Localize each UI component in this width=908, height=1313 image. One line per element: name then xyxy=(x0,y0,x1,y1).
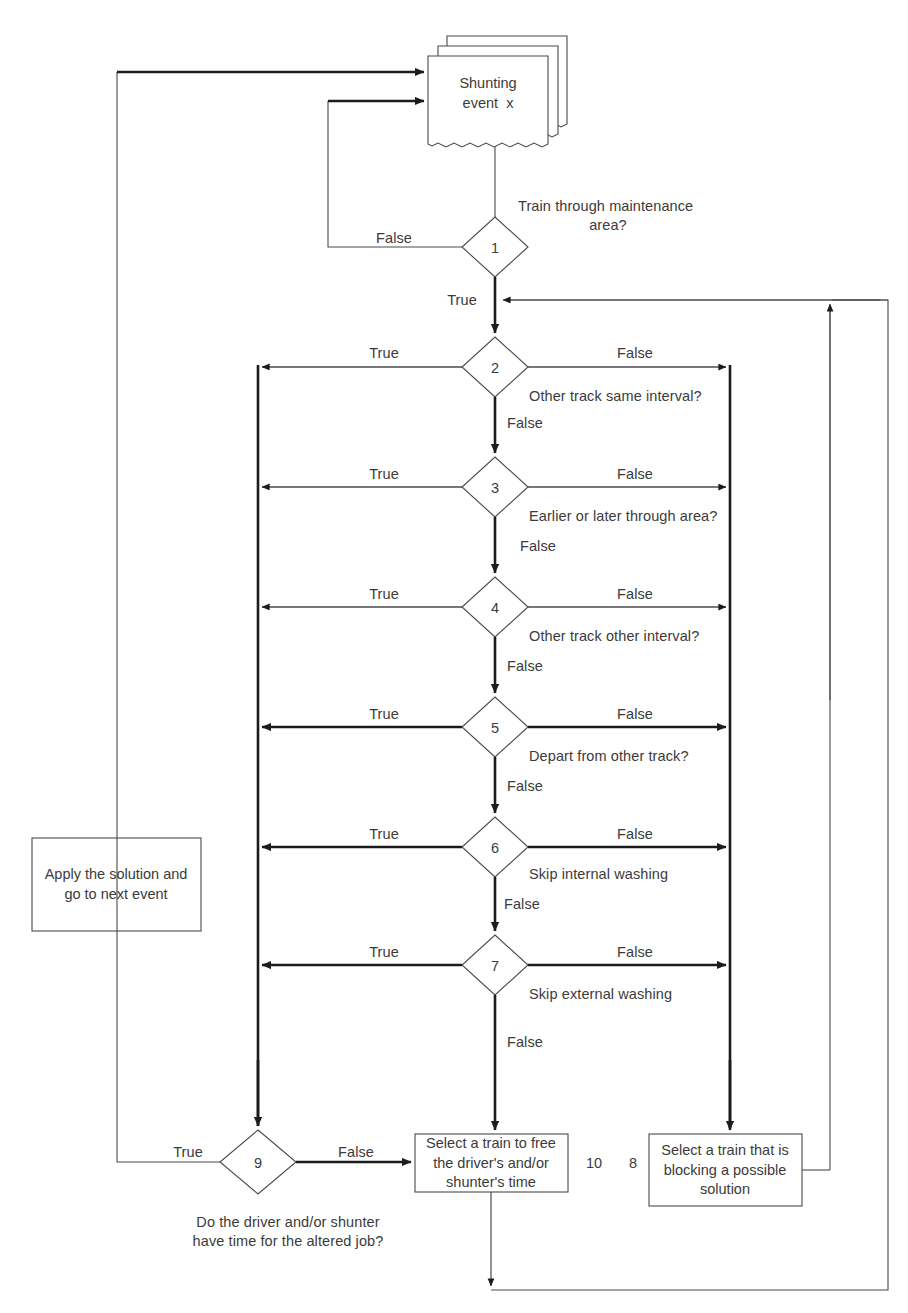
decision-7-false-label: False xyxy=(617,943,653,962)
decision-7-true-label: True xyxy=(369,943,399,962)
decision-4-true-label: True xyxy=(369,585,399,604)
flowchart-vector-layer xyxy=(0,0,908,1313)
process-10-number: 10 xyxy=(586,1155,602,1171)
decision-6-number: 6 xyxy=(491,840,499,856)
decision-9-true-label: True xyxy=(173,1143,203,1162)
decision-3-number: 3 xyxy=(491,480,499,496)
process-10-label: Select a train to free the driver's and/… xyxy=(411,1134,571,1193)
decision-3-down-label: False xyxy=(520,537,556,556)
decision-4-number: 4 xyxy=(491,600,499,616)
decision-7-number: 7 xyxy=(491,958,499,974)
process-apply-line1: Apply the solution and xyxy=(45,866,188,882)
process-10-line1: Select a train to free xyxy=(426,1135,556,1151)
decision-6-question: Skip internal washing xyxy=(529,865,668,884)
decision-4-false-label: False xyxy=(617,585,653,604)
document-line2: event x xyxy=(463,94,514,110)
decision-6-true-label: True xyxy=(369,825,399,844)
process-apply-label: Apply the solution and go to next event xyxy=(27,865,205,904)
decision-9-number: 9 xyxy=(254,1155,262,1171)
decision-9-question-line2: have time for the altered job? xyxy=(193,1232,384,1251)
decision-1-question-line1: Train through maintenance xyxy=(518,197,693,216)
decision-6-false-label: False xyxy=(617,825,653,844)
decision-2-down-label: False xyxy=(507,414,543,433)
decision-9-false-label: False xyxy=(338,1143,374,1162)
decision-7-question: Skip external washing xyxy=(529,985,672,1004)
edge-d9-true-path xyxy=(117,72,220,1162)
flowchart-canvas: Shunting event x 1 Train through mainten… xyxy=(0,0,908,1313)
decision-2-question: Other track same interval? xyxy=(529,387,702,406)
process-10-line3: shunter's time xyxy=(446,1174,536,1190)
decision-7-down-label: False xyxy=(507,1033,543,1052)
process-10-line2: the driver's and/or xyxy=(433,1154,549,1170)
decision-5-false-label: False xyxy=(617,705,653,724)
decision-1-true-label: True xyxy=(447,291,477,310)
decision-2-number: 2 xyxy=(491,360,499,376)
document-line1: Shunting xyxy=(459,75,516,91)
decision-5-number: 5 xyxy=(491,720,499,736)
process-8-line1: Select a train that is xyxy=(661,1142,788,1158)
decision-3-question: Earlier or later through area? xyxy=(529,507,717,526)
decision-5-question: Depart from other track? xyxy=(529,747,689,766)
decision-9-question-line1: Do the driver and/or shunter xyxy=(196,1213,379,1232)
process-8-label: Select a train that is blocking a possib… xyxy=(645,1141,805,1200)
decision-6-down-label: False xyxy=(504,895,540,914)
decision-5-true-label: True xyxy=(369,705,399,724)
decision-1-false-label: False xyxy=(376,229,412,248)
decision-1-question-line2: area? xyxy=(589,216,627,235)
decision-4-question: Other track other interval? xyxy=(529,627,699,646)
process-apply-line2: go to next event xyxy=(64,885,167,901)
decision-4-down-label: False xyxy=(507,657,543,676)
decision-3-false-label: False xyxy=(617,465,653,484)
decision-5-down-label: False xyxy=(507,777,543,796)
decision-1-number: 1 xyxy=(491,240,499,256)
process-8-number: 8 xyxy=(629,1155,637,1171)
process-8-line2: blocking a possible xyxy=(664,1161,787,1177)
decision-3-true-label: True xyxy=(369,465,399,484)
document-label: Shunting event x xyxy=(418,74,558,113)
decision-2-false-label: False xyxy=(617,344,653,363)
decision-2-true-label: True xyxy=(369,344,399,363)
process-8-line3: solution xyxy=(700,1181,750,1197)
